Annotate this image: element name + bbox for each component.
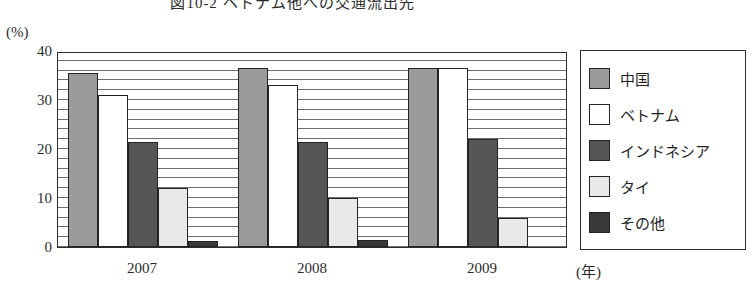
y-axis-tick-label: 0 xyxy=(6,240,52,255)
legend-item[interactable]: インドネシア xyxy=(589,132,745,168)
legend-item[interactable]: タイ xyxy=(589,168,745,204)
bar xyxy=(328,198,358,247)
y-axis-unit-label: (%) xyxy=(6,24,29,41)
chart-figure: 図10-2 ベトナム他への交通流出先 (%) 010203040 2007200… xyxy=(0,0,755,303)
bar xyxy=(128,142,158,247)
bar xyxy=(238,68,268,247)
bar xyxy=(358,240,388,247)
y-axis-tick-label: 30 xyxy=(6,93,52,108)
y-axis: 010203040 xyxy=(0,52,52,248)
legend-label: インドネシア xyxy=(620,140,710,161)
legend-swatch-icon xyxy=(589,104,610,125)
y-axis-tick-label: 40 xyxy=(6,44,52,59)
x-axis-unit-label: (年) xyxy=(576,260,601,281)
legend-swatch-icon xyxy=(589,140,610,161)
x-axis-tick-label: 2008 xyxy=(297,260,327,277)
bar xyxy=(98,95,128,247)
x-axis-tick-label: 2009 xyxy=(467,260,497,277)
legend-label: ベトナム xyxy=(620,104,680,125)
x-axis-tick-label: 2007 xyxy=(127,260,157,277)
chart-legend: 中国ベトナムインドネシアタイその他 xyxy=(580,50,746,250)
legend-item[interactable]: ベトナム xyxy=(589,96,745,132)
bar xyxy=(158,188,188,247)
y-axis-tick-label: 20 xyxy=(6,142,52,157)
bar xyxy=(468,139,498,247)
bar xyxy=(188,241,218,247)
plot-area xyxy=(57,52,567,248)
legend-swatch-icon xyxy=(589,176,610,197)
legend-swatch-icon xyxy=(589,212,610,233)
x-axis: 200720082009 xyxy=(57,252,567,282)
bar xyxy=(408,68,438,247)
bar xyxy=(498,218,528,247)
legend-label: その他 xyxy=(620,212,665,233)
chart-title: 図10-2 ベトナム他への交通流出先 xyxy=(0,0,585,12)
legend-label: タイ xyxy=(620,176,650,197)
bar-series-container xyxy=(58,53,566,247)
legend-item[interactable]: その他 xyxy=(589,204,745,240)
bar xyxy=(438,68,468,247)
bar xyxy=(298,142,328,247)
y-axis-tick-label: 10 xyxy=(6,191,52,206)
bar xyxy=(268,85,298,247)
bar xyxy=(68,73,98,247)
legend-swatch-icon xyxy=(589,68,610,89)
legend-item[interactable]: 中国 xyxy=(589,60,745,96)
legend-label: 中国 xyxy=(620,68,650,89)
